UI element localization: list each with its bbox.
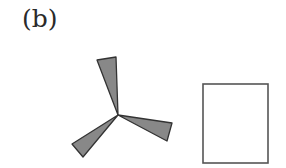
pinwheel-blade-top: [97, 57, 118, 115]
pinwheel-shape: [72, 57, 172, 157]
empty-rectangle: [203, 84, 268, 163]
figure-canvas: [0, 0, 286, 168]
pinwheel-blade-bottom-left: [72, 115, 118, 157]
pinwheel-blade-right: [118, 115, 172, 141]
